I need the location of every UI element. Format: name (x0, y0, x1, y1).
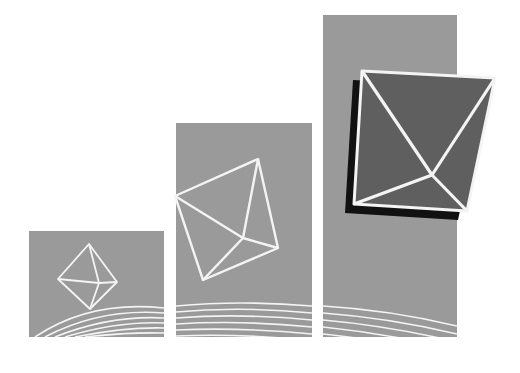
illustration (0, 0, 520, 373)
panel-medium (175, 123, 312, 341)
octahedron-large-icon (345, 71, 495, 220)
panel-small (29, 231, 164, 337)
